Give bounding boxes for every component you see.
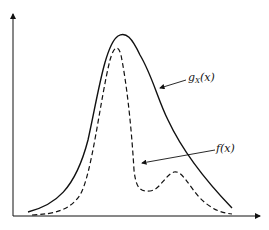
f-label: f(x) — [216, 142, 235, 155]
g-label-arrow — [160, 80, 186, 88]
diagram-canvas — [0, 0, 269, 230]
f-label-arrow — [142, 150, 215, 163]
g-label: gX(x) — [188, 71, 215, 85]
